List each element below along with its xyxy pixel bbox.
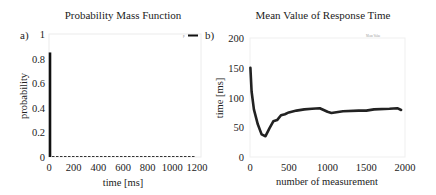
panel-a-title: Probability Mass Function <box>65 9 182 21</box>
panel-a-x-label: time [ms] <box>103 177 144 188</box>
panel-a-y-tick-label: 0.6 <box>32 78 45 89</box>
panel-b-y-label: time [ms] <box>214 78 225 119</box>
panel-a-y-ticks: 00.20.40.60.81 <box>32 29 46 163</box>
panel-a-y-tick-label: 0.4 <box>32 103 46 114</box>
panel-b-y-ticks: 050100150200 <box>228 33 244 163</box>
panel-b-y-tick-label: 200 <box>228 33 244 44</box>
panel-a-x-ticks: 020040060080010001200 <box>46 162 207 173</box>
panel-b-x-label: number of measurement <box>276 176 378 187</box>
panel-b-x-tick-label: 1500 <box>356 162 377 173</box>
panel-a-y-tick-label: 0.8 <box>32 54 45 65</box>
panel-a-y-tick-label: 1 <box>40 29 45 40</box>
panel-a: a) Probability Mass Function 00.20.40.60… <box>18 9 208 188</box>
panel-a-y-tick-label: 0 <box>40 152 45 163</box>
panel-b-y-tick-label: 50 <box>234 122 245 133</box>
panel-b-x-tick-label: 2000 <box>395 162 416 173</box>
panel-a-x-tick-label: 200 <box>66 162 82 173</box>
panel-b-legend-label: Mean Value <box>366 34 381 38</box>
panel-a-x-tick-label: 600 <box>115 162 131 173</box>
panel-a-legend-label: p <box>183 34 185 38</box>
panel-a-plot-frame <box>49 34 201 157</box>
panel-a-x-tick-label: 1000 <box>162 162 183 173</box>
panel-a-label: a) <box>20 29 29 42</box>
panel-a-x-tick-label: 1200 <box>187 162 208 173</box>
panel-a-bars <box>50 52 195 157</box>
panel-b-y-tick-label: 100 <box>228 93 244 104</box>
panel-a-x-tick-label: 400 <box>90 162 106 173</box>
panel-b-y-tick-label: 150 <box>228 63 244 74</box>
panel-a-legend: p <box>183 34 198 38</box>
panel-a-x-tick-label: 0 <box>46 162 51 173</box>
panel-b-x-ticks: 0500100015002000 <box>247 162 415 173</box>
panel-b-x-tick-label: 500 <box>281 162 297 173</box>
panel-b: b) Mean Value of Response Time 050100150… <box>205 9 416 187</box>
panel-b-x-tick-label: 0 <box>247 162 252 173</box>
panel-a-y-tick-label: 0.2 <box>32 127 45 138</box>
panel-b-mean-line <box>250 68 401 136</box>
panel-b-y-tick-label: 0 <box>239 152 244 163</box>
panel-a-x-tick-label: 800 <box>140 162 156 173</box>
panel-b-plot-frame <box>250 38 405 157</box>
panel-b-label: b) <box>205 29 215 42</box>
panel-a-y-label: probability <box>18 72 29 119</box>
panel-b-x-tick-label: 1000 <box>317 162 338 173</box>
panel-b-title: Mean Value of Response Time <box>256 9 391 21</box>
figure: a) Probability Mass Function 00.20.40.60… <box>0 0 436 195</box>
